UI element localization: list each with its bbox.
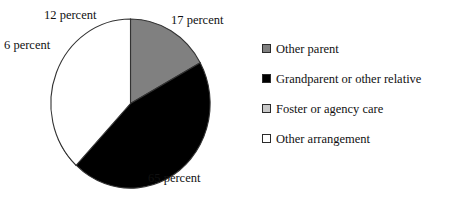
legend-item-other-arrangement: Other arrangement: [262, 131, 448, 146]
pie-label-other-parent: 17 percent: [171, 13, 223, 27]
legend-label-other-parent: Other parent: [276, 42, 339, 56]
pie-label-other-arrangement: 12 percent: [44, 8, 96, 22]
legend-item-grandparent-or-other-relative: Grandparent or other relative: [262, 71, 448, 86]
chart-legend: Other parent Grandparent or other relati…: [262, 41, 448, 146]
legend-swatch-icon-foster-or-agency-care: [262, 104, 271, 113]
pie-chart-plot-area: 12 percent 17 percent 6 percent 65 perce…: [0, 0, 240, 201]
legend-swatch-icon-grandparent-or-other-relative: [262, 74, 271, 83]
legend-label-grandparent-or-other-relative: Grandparent or other relative: [276, 72, 421, 86]
legend-swatch-icon-other-parent: [262, 44, 271, 53]
pie-label-foster-or-agency-care: 6 percent: [4, 38, 50, 52]
pie-chart-svg: [0, 0, 240, 201]
pie-label-grandparent-or-other-relative: 65 percent: [148, 171, 200, 185]
pie-chart-figure: 12 percent 17 percent 6 percent 65 perce…: [0, 0, 450, 201]
legend-item-other-parent: Other parent: [262, 41, 448, 56]
legend-label-foster-or-agency-care: Foster or agency care: [276, 102, 383, 116]
legend-label-other-arrangement: Other arrangement: [276, 132, 370, 146]
legend-item-foster-or-agency-care: Foster or agency care: [262, 101, 448, 116]
legend-swatch-icon-other-arrangement: [262, 134, 271, 143]
